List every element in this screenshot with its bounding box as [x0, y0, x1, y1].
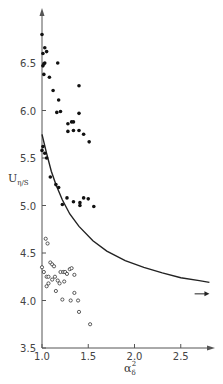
- open-point: [54, 289, 57, 292]
- filled-point: [92, 205, 96, 209]
- open-point: [63, 280, 66, 283]
- x-ticks: 1.01.52.02.5: [34, 344, 189, 362]
- filled-point: [42, 73, 46, 77]
- open-point: [40, 266, 43, 269]
- curve-path: [42, 134, 209, 282]
- y-axis-label: Uη/S: [8, 172, 29, 187]
- fitted-curve: [42, 134, 209, 282]
- filled-point: [77, 112, 81, 116]
- filled-point: [82, 196, 86, 200]
- arrow-right-icon: [204, 291, 209, 296]
- y-axis-label-main: U: [8, 172, 17, 185]
- open-point: [52, 265, 55, 268]
- annotations: [195, 291, 210, 296]
- filled-point: [82, 132, 86, 136]
- filled-point: [86, 197, 90, 201]
- x-tick-label: 2.5: [173, 351, 189, 362]
- open-point: [47, 275, 50, 278]
- filled-point: [77, 84, 81, 88]
- y-tick-label: 6.5: [20, 58, 36, 69]
- x-axis-arrow-icon: [207, 346, 215, 351]
- y-tick-label: 4.0: [20, 296, 36, 307]
- filled-point: [56, 61, 60, 65]
- open-point: [44, 237, 47, 240]
- open-point: [65, 272, 68, 275]
- open-point: [51, 278, 54, 281]
- filled-point: [41, 145, 45, 149]
- filled-point: [72, 129, 76, 133]
- open-point: [77, 310, 80, 313]
- y-axis-label-sub: η/S: [17, 179, 29, 187]
- open-point: [69, 299, 72, 302]
- filled-point: [72, 200, 76, 204]
- y-tick-label: 6.0: [20, 106, 36, 117]
- filled-point: [40, 33, 44, 37]
- open-point: [76, 299, 79, 302]
- x-axis-label-sup: 2: [132, 360, 136, 368]
- filled-point: [49, 175, 53, 179]
- filled-point: [66, 130, 70, 134]
- x-axis-label-sub: δ: [131, 369, 135, 377]
- filled-point: [55, 111, 59, 115]
- open-point: [46, 242, 49, 245]
- filled-point: [40, 149, 44, 153]
- y-tick-label: 5.0: [20, 201, 36, 212]
- filled-point: [65, 196, 69, 200]
- filled-point: [42, 62, 46, 66]
- open-point: [53, 275, 56, 278]
- filled-point: [57, 98, 61, 102]
- data-points: [40, 33, 95, 326]
- y-tick-label: 4.5: [20, 248, 36, 259]
- filled-point: [59, 110, 63, 114]
- filled-point: [57, 186, 61, 190]
- filled-point: [54, 183, 58, 187]
- open-point: [58, 282, 61, 285]
- y-tick-label: 5.5: [20, 153, 36, 164]
- filled-point: [66, 122, 70, 126]
- filled-point: [41, 52, 45, 56]
- filled-point: [45, 50, 49, 54]
- filled-point: [72, 120, 76, 124]
- filled-point: [87, 140, 91, 144]
- x-tick-label: 1.5: [80, 351, 96, 362]
- axes: [40, 8, 216, 351]
- filled-point: [48, 75, 52, 79]
- x-axis-label: αδ2: [124, 360, 136, 377]
- filled-point: [43, 46, 47, 50]
- filled-point: [51, 89, 55, 93]
- open-point: [73, 273, 76, 276]
- open-point: [42, 270, 45, 273]
- x-tick-label: 1.0: [34, 351, 50, 362]
- filled-point: [43, 151, 47, 155]
- filled-point: [78, 204, 82, 208]
- filled-point: [61, 203, 65, 207]
- open-point: [70, 267, 73, 270]
- filled-point: [45, 156, 49, 160]
- open-point: [89, 323, 92, 326]
- open-point: [61, 298, 64, 301]
- open-point: [45, 285, 48, 288]
- scatter-chart: 3.54.04.55.05.56.06.5 1.01.52.02.5 Uη/S …: [0, 0, 223, 384]
- open-point: [73, 291, 76, 294]
- y-axis-arrow-icon: [40, 8, 45, 16]
- filled-point: [77, 129, 81, 133]
